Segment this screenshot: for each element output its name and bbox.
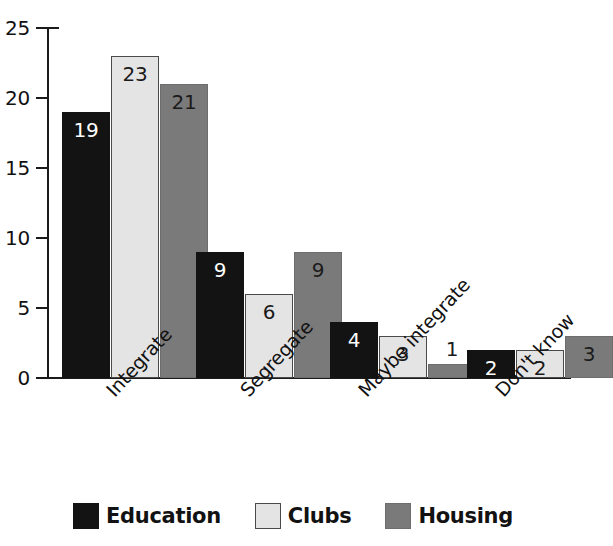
legend-swatch-icon-clubs xyxy=(255,503,281,529)
bar-value-label: 23 xyxy=(112,64,158,84)
y-tick-10 xyxy=(36,237,48,239)
y-tick-5 xyxy=(36,307,48,309)
bar-integrate-education: 19 xyxy=(62,112,110,378)
bar-value-label: 4 xyxy=(331,330,377,350)
legend-swatch-icon-education xyxy=(73,503,99,529)
y-tick-label-0: 0 xyxy=(0,368,30,388)
y-tick-25 xyxy=(36,27,48,29)
y-tick-label-10: 10 xyxy=(0,228,30,248)
bar-value-label: 9 xyxy=(197,260,243,280)
y-tick-label-5: 5 xyxy=(0,298,30,318)
y-tick-label-25: 25 xyxy=(0,18,30,38)
legend-label-education: Education xyxy=(106,506,221,527)
y-tick-label-20: 20 xyxy=(0,88,30,108)
y-tick-label-15: 15 xyxy=(0,158,30,178)
legend-label-clubs: Clubs xyxy=(288,506,352,527)
bar-value-label: 3 xyxy=(566,344,612,364)
legend-item-clubs: Clubs xyxy=(255,503,352,529)
bar-value-label: 9 xyxy=(295,260,341,280)
bar-value-label: 21 xyxy=(161,92,207,112)
bar-dont-know-housing: 3 xyxy=(565,336,613,378)
chart-legend: Education Clubs Housing xyxy=(0,503,586,529)
y-tick-0 xyxy=(36,377,48,379)
legend-item-housing: Housing xyxy=(385,503,513,529)
legend-swatch-icon-housing xyxy=(385,503,411,529)
legend-label-housing: Housing xyxy=(418,506,513,527)
bar-value-label: 6 xyxy=(246,302,292,322)
y-tick-20 xyxy=(36,97,48,99)
legend-item-education: Education xyxy=(73,503,221,529)
y-tick-15 xyxy=(36,167,48,169)
bar-value-label: 19 xyxy=(63,120,109,140)
bar-segregate-education: 9 xyxy=(196,252,244,378)
